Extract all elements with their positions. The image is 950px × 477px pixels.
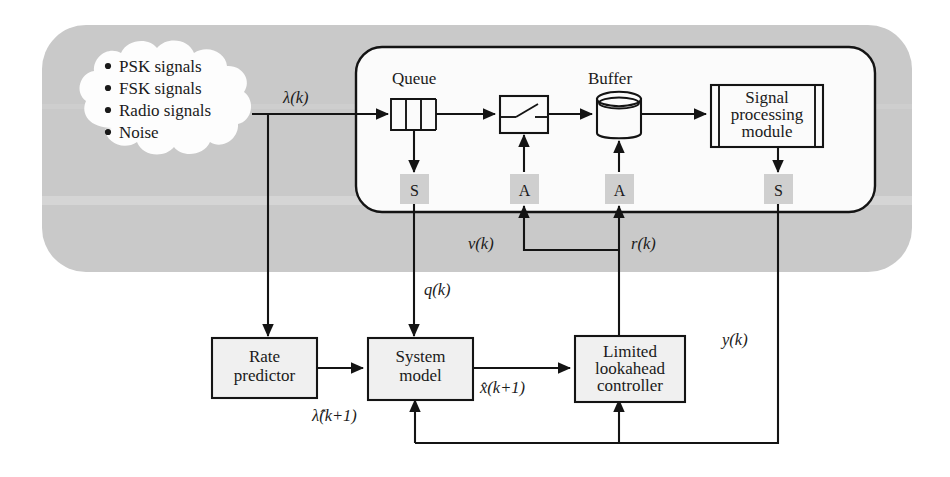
controller-line-3: controller — [597, 376, 663, 395]
queue-caption: Queue — [392, 69, 436, 88]
signal-label-lambda: λ(k) — [282, 88, 308, 107]
bullet-icon — [105, 107, 111, 113]
sa-node-label: S — [774, 182, 783, 199]
signal-label-q: q(k) — [424, 280, 451, 299]
cloud-item-2: Radio signals — [105, 101, 211, 120]
box-rate-predictor[interactable]: Rate predictor — [212, 338, 317, 398]
signal-label-x-hat: x̂(k+1) — [479, 378, 525, 397]
signal-label-y: y(k) — [720, 330, 748, 349]
cloud-item-0: PSK signals — [105, 57, 202, 76]
diagram-canvas: PSK signals FSK signals Radio signals No… — [0, 0, 950, 477]
bullet-icon — [105, 129, 111, 135]
cloud-item-label: FSK signals — [119, 79, 202, 98]
edge-lambda-hat: λ̂(k+1) — [311, 368, 363, 425]
sa-node-label: A — [519, 182, 531, 199]
spm-line-3: module — [742, 122, 793, 141]
system-model-line-1: System — [395, 347, 445, 366]
rate-predictor-line-2: predictor — [234, 366, 296, 385]
sa-node-label: A — [614, 182, 626, 199]
cloud-item-label: Noise — [119, 123, 159, 142]
buffer-symbol — [597, 92, 641, 138]
signal-processing-module: Signal processing module — [711, 85, 823, 147]
sa-node-s-queue: S — [400, 174, 429, 204]
system-model-line-2: model — [399, 366, 442, 385]
sa-node-label: S — [410, 182, 419, 199]
box-system-model[interactable]: System model — [368, 338, 473, 400]
signal-label-r: r(k) — [631, 234, 656, 253]
cloud-item-label: Radio signals — [119, 101, 211, 120]
cloud-item-label: PSK signals — [119, 57, 202, 76]
box-limited-lookahead-controller[interactable]: Limited lookahead controller — [575, 336, 685, 402]
cloud-item-1: FSK signals — [105, 79, 202, 98]
diagram-svg: PSK signals FSK signals Radio signals No… — [0, 0, 950, 477]
signal-label-nu: ν(k) — [468, 234, 494, 253]
sa-node-s-spm: S — [764, 174, 793, 204]
bullet-icon — [105, 63, 111, 69]
sa-node-a-switch: A — [510, 174, 539, 204]
signal-label-lambda-hat: λ̂(k+1) — [311, 406, 357, 425]
sa-node-a-buffer: A — [605, 174, 634, 204]
bullet-icon — [105, 85, 111, 91]
switch-symbol — [500, 96, 548, 133]
edge-x-hat: x̂(k+1) — [473, 368, 570, 397]
rate-predictor-line-1: Rate — [249, 347, 280, 366]
buffer-caption: Buffer — [588, 69, 632, 88]
